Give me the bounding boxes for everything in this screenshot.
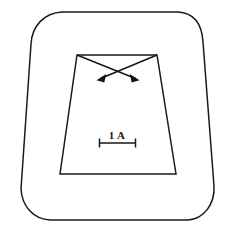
figure-container: 1 A <box>0 0 235 232</box>
figure-background <box>0 0 235 232</box>
scale-bar-label: 1 A <box>109 129 126 141</box>
technical-line-drawing: 1 A <box>0 0 235 232</box>
